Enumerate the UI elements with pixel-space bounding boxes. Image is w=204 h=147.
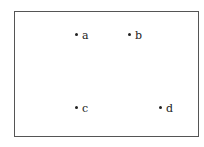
- point-label: d: [166, 103, 173, 114]
- point-label: b: [135, 30, 142, 41]
- dot-icon: [75, 33, 78, 36]
- dot-icon: [159, 106, 162, 109]
- diagram-frame: [14, 11, 199, 137]
- dot-icon: [75, 106, 78, 109]
- point-label: a: [82, 30, 89, 41]
- dot-icon: [128, 33, 131, 36]
- point-label: c: [82, 103, 88, 114]
